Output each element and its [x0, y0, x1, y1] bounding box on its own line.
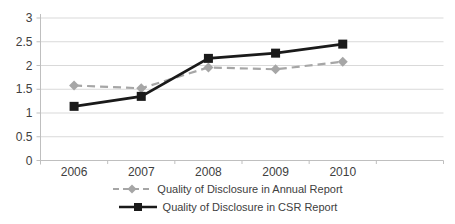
- legend-label-annual-report: Quality of Disclosure in Annual Report: [157, 183, 342, 195]
- svg-text:2: 2: [26, 59, 33, 73]
- svg-text:1: 1: [26, 106, 33, 120]
- legend-label-csr-report: Quality of Disclosure in CSR Report: [163, 201, 338, 213]
- svg-text:2009: 2009: [262, 165, 289, 179]
- svg-text:2006: 2006: [61, 165, 88, 179]
- svg-text:3: 3: [26, 11, 33, 25]
- svg-text:0.5: 0.5: [16, 130, 33, 144]
- solid-square-swatch-icon: [118, 201, 158, 213]
- svg-text:1.5: 1.5: [16, 82, 33, 96]
- svg-text:2.5: 2.5: [16, 35, 33, 49]
- svg-text:2007: 2007: [128, 165, 155, 179]
- svg-text:0: 0: [26, 154, 33, 168]
- svg-text:2010: 2010: [329, 165, 356, 179]
- dashed-diamond-swatch-icon: [112, 183, 152, 195]
- svg-text:2008: 2008: [195, 165, 222, 179]
- line-chart: 00.511.522.5320062007200820092010 Qualit…: [0, 0, 455, 224]
- legend-item-annual-report: Quality of Disclosure in Annual Report: [112, 180, 342, 197]
- legend-item-csr-report: Quality of Disclosure in CSR Report: [118, 198, 338, 215]
- chart-legend: Quality of Disclosure in Annual Report Q…: [0, 180, 455, 215]
